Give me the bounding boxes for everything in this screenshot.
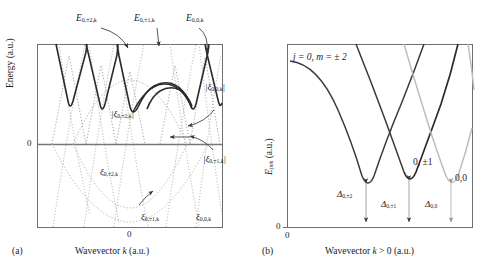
panel-b-frame bbox=[288, 45, 473, 228]
label-abs-xi-0-0-k: |ξ0,0,k| bbox=[205, 83, 225, 93]
panel-a-ylabel: Energy (a.u.) bbox=[6, 38, 16, 88]
label-abs-xi-0-pm2-k-sub: 0,±2,k bbox=[117, 113, 131, 119]
panel-a-tag: (a) bbox=[12, 247, 23, 257]
label-xi-0-pm2-k-sub: 0,±2,k bbox=[104, 171, 118, 177]
panel-b-xlabel-pre: Wavevector bbox=[325, 246, 373, 256]
label-abs-xi-0-pm2-k: |ξ0,±2,k| bbox=[111, 110, 134, 120]
panel-a-xlabel-pre: Wavevector bbox=[75, 246, 123, 256]
panel-a-abs-xi-dotted bbox=[52, 56, 220, 144]
panel-b-state-label: j = 0, m = ± 2 bbox=[293, 53, 347, 63]
label-E-0-pm2-k-sub: 0,±2,k bbox=[82, 17, 97, 23]
panel-b-gap-arrows bbox=[366, 180, 451, 222]
panel-b-tag: (b) bbox=[262, 247, 273, 257]
panel-b-ylabel-post: (a.u.) bbox=[264, 138, 274, 160]
panel-b-ylabel-sub: jmk bbox=[268, 161, 274, 169]
panel-b-ylabel-italic: E bbox=[264, 169, 274, 175]
panel-b-xtick-zero: 0 bbox=[285, 231, 290, 240]
label-delta-0-0: Δ0,0 bbox=[425, 200, 437, 210]
figure-root: E0,±2,k E0,±1,k E0,0,k |ξ0,±2,k| |ξ0,0,k… bbox=[0, 0, 489, 274]
label-xi-0-0-k: ξ0,0,k bbox=[196, 213, 211, 223]
label-E-0-pm2-k: E0,±2,k bbox=[76, 14, 97, 24]
panel-a-ytick-zero: 0 bbox=[27, 139, 32, 148]
panel-a-xlabel: Wavevector k (a.u.) bbox=[75, 247, 149, 257]
label-E-0-0-k: E0,0,k bbox=[186, 14, 204, 24]
panel-a-xi-pm2-parabola bbox=[52, 144, 208, 222]
label-xi-0-pm2-k: ξ0,±2,k bbox=[100, 168, 118, 178]
label-abs-xi-0-pm1-k: |ξ0,±1,k| bbox=[203, 155, 226, 165]
label-E-0-0-k-sub: 0,0,k bbox=[192, 17, 204, 23]
label-xi-0-pm1-k: ξ0,±1,k bbox=[141, 213, 159, 223]
label-state-0-pm1: 0, ±1 bbox=[413, 158, 432, 168]
panel-b-xlabel: Wavevector k > 0 (a.u.) bbox=[325, 247, 414, 257]
figure-canvas bbox=[0, 0, 489, 274]
label-E-0-pm1-k: E0,±1,k bbox=[134, 14, 155, 24]
panel-a-frame bbox=[38, 45, 223, 228]
panel-a-xlabel-post: (a.u.) bbox=[127, 246, 149, 256]
label-abs-xi-0-pm1-k-sub: 0,±1,k bbox=[209, 158, 223, 164]
label-delta-0-pm1: Δ0,±1 bbox=[381, 200, 396, 210]
panel-a-xtick-zero: 0 bbox=[127, 230, 132, 239]
panel-b-xlabel-post: > 0 (a.u.) bbox=[377, 246, 414, 256]
label-delta-0-0-sub: 0,0 bbox=[430, 203, 437, 209]
panel-a-xi-curves bbox=[53, 44, 222, 227]
label-xi-0-pm1-k-sub: 0,±1,k bbox=[145, 216, 159, 222]
label-state-0-0: 0,0 bbox=[455, 174, 467, 184]
label-delta-0-pm1-sub: 0,±1 bbox=[386, 203, 396, 209]
panel-a-central-hump bbox=[133, 84, 192, 112]
panel-b-bands bbox=[290, 44, 474, 183]
panel-b-ytick-zero: 0 bbox=[276, 222, 281, 231]
label-delta-0-pm2-sub: 0,±2 bbox=[342, 193, 352, 199]
label-E-0-pm1-k-sub: 0,±1,k bbox=[140, 17, 155, 23]
label-delta-0-pm2: Δ0,±2 bbox=[337, 190, 352, 200]
panel-b-ylabel: Ejmk (a.u.) bbox=[265, 138, 275, 175]
label-xi-0-0-k-sub: 0,0,k bbox=[200, 216, 211, 222]
label-abs-xi-0-0-k-sub: 0,0,k bbox=[211, 86, 222, 92]
